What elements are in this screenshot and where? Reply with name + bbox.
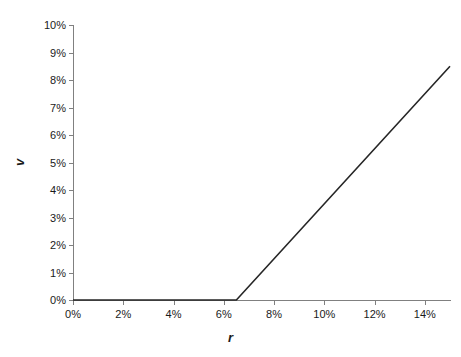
y-tick-label: 7% xyxy=(50,102,66,114)
data-series-layer xyxy=(73,25,450,300)
x-tick-label: 8% xyxy=(266,308,282,320)
y-tick-label: 6% xyxy=(50,129,66,141)
series-line-v xyxy=(73,66,450,300)
y-tick-label: 3% xyxy=(50,212,66,224)
y-tick-label: 1% xyxy=(50,267,66,279)
y-tick-label: 0% xyxy=(50,294,66,306)
x-tick-mark xyxy=(324,300,325,305)
x-tick-mark xyxy=(425,300,426,305)
y-axis-title: v xyxy=(12,159,27,166)
chart-container: 0%1%2%3%4%5%6%7%8%9%10% 0%2%4%6%8%10%12%… xyxy=(0,0,461,357)
x-tick-label: 10% xyxy=(313,308,335,320)
plot-area: 0%1%2%3%4%5%6%7%8%9%10% 0%2%4%6%8%10%12%… xyxy=(73,25,450,300)
x-tick-label: 14% xyxy=(414,308,436,320)
x-axis-title: r xyxy=(0,330,461,345)
y-tick-label: 2% xyxy=(50,239,66,251)
y-tick-label: 9% xyxy=(50,47,66,59)
x-tick-mark xyxy=(274,300,275,305)
x-tick-label: 12% xyxy=(364,308,386,320)
y-tick-label: 10% xyxy=(44,19,66,31)
x-tick-label: 2% xyxy=(115,308,131,320)
x-tick-label: 0% xyxy=(65,308,81,320)
y-tick-label: 5% xyxy=(50,157,66,169)
x-tick-label: 4% xyxy=(166,308,182,320)
x-tick-mark xyxy=(375,300,376,305)
x-tick-label: 6% xyxy=(216,308,232,320)
y-tick-label: 8% xyxy=(50,74,66,86)
y-tick-label: 4% xyxy=(50,184,66,196)
